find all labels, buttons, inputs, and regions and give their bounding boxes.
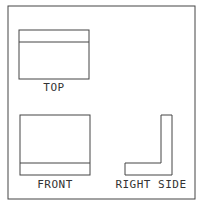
top-view-outline: [19, 30, 89, 79]
top-view-label: TOP: [43, 81, 64, 94]
orthographic-drawing: TOP FRONT RIGHT SIDE: [0, 0, 206, 211]
outer-frame: [8, 6, 195, 199]
front-view-label: FRONT: [37, 178, 73, 191]
right-side-view-label: RIGHT SIDE: [115, 178, 186, 191]
front-view-outline: [20, 115, 90, 175]
right-side-view-outline: [125, 115, 172, 175]
right-side-view: RIGHT SIDE: [115, 115, 186, 191]
top-view: TOP: [19, 30, 89, 94]
front-view: FRONT: [20, 115, 90, 191]
